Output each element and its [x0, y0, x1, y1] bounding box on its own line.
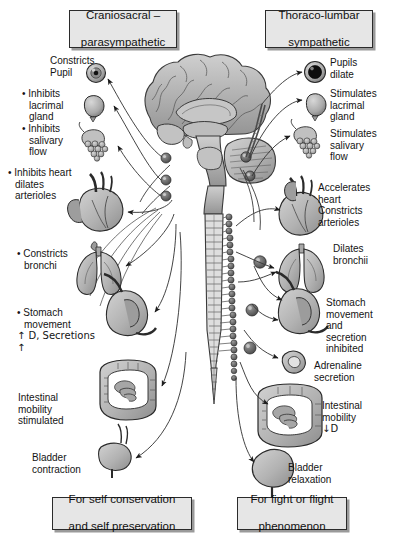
label-stomach-movement-secretions: • Stomach movement ↑ D, Secretions ↑	[17, 307, 117, 353]
label-constricts-bronchi: • Constricts bronchi	[17, 248, 97, 271]
footer-box-fight-or-flight: For fight or flight phenomenon	[237, 497, 347, 530]
label-stimulates-lacrimal-gland: Stimulates lacrimal gland	[330, 88, 402, 123]
lungs-icon-right	[279, 244, 324, 292]
footer-left-line1: For self conservation	[69, 493, 176, 507]
label-dilates-bronchii: Dilates bronchii	[333, 243, 401, 266]
label-stimulates-salivary-flow: Stimulates salivary flow	[330, 128, 402, 163]
parasympathetic-ganglia-icon	[161, 153, 171, 201]
header-right-line2: sympathetic	[278, 36, 359, 50]
footer-box-self-conservation: For self conservation and self preservat…	[52, 497, 192, 530]
label-bladder-relaxation: Bladder relaxation	[288, 462, 368, 485]
adrenal-gland-icon	[282, 351, 305, 373]
lacrimal-gland-icon-right	[306, 94, 326, 121]
header-box-parasympathetic: Craniosacral – parasympathetic	[69, 10, 177, 48]
label-intestinal-mobility-decreased: Intestinal mobility ↓D	[322, 400, 402, 435]
footer-right-line1: For fight or flight	[250, 493, 333, 507]
label-accelerates-heart-constricts-arterioles: Accelerates heart Constricts arterioles	[318, 182, 402, 228]
label-stomach-movement-secretion-inhibited: Stomach movement and secretion inhibited	[326, 297, 402, 355]
label-bladder-contraction: Bladder contraction	[32, 452, 104, 475]
header-left-line2: parasympathetic	[81, 36, 165, 50]
footer-right-line2: phenomenon	[250, 520, 333, 534]
heart-icon-right	[279, 176, 323, 235]
label-inhibits-heart-dilates-arterioles: • Inhibits heart dilates arterioles	[8, 167, 90, 202]
header-box-sympathetic: Thoraco-lumbar sympathetic	[265, 10, 373, 48]
intestine-icon-left	[100, 360, 156, 420]
header-left-line1: Craniosacral –	[81, 9, 165, 23]
eye-dilated-icon	[305, 62, 326, 83]
label-intestinal-mobility-stimulated: Intestinal mobility stimulated	[18, 392, 96, 427]
header-right-line1: Thoraco-lumbar	[278, 9, 359, 23]
label-constricts-pupil: Constricts Pupil	[50, 55, 110, 78]
salivary-gland-icon-right	[291, 119, 320, 158]
label-inhibits-lacrimal-gland: • Inhibits lacrimal gland	[22, 88, 92, 123]
label-adrenaline-secretion: Adrenaline secretion	[314, 360, 400, 383]
autonomic-nervous-system-diagram: Craniosacral – parasympathetic Thoraco-l…	[0, 0, 402, 540]
label-inhibits-salivary-flow: • Inhibits salivary flow	[22, 123, 84, 158]
intestine-icon-right	[258, 384, 322, 447]
footer-left-line2: and self preservation	[69, 520, 176, 534]
label-pupils-dilate: Pupils dilate	[330, 57, 400, 80]
